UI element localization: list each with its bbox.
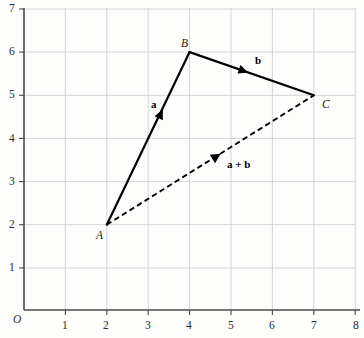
x-tick-label-7: 7 xyxy=(311,320,317,332)
y-tick-label-3: 3 xyxy=(9,176,15,188)
point-label-c: C xyxy=(322,99,330,111)
vector-b-line xyxy=(190,52,314,95)
y-tick-label-6: 6 xyxy=(9,46,15,58)
vector-a-plus-b-arrowhead xyxy=(210,150,223,164)
plot-canvas xyxy=(0,0,364,338)
x-tick-label-2: 2 xyxy=(103,320,109,332)
y-tick-label-2: 2 xyxy=(9,219,15,231)
vector-b-arrowhead xyxy=(238,65,250,77)
x-tick-label-1: 1 xyxy=(62,320,68,332)
x-tick-label-3: 3 xyxy=(145,320,151,332)
y-tick-label-7: 7 xyxy=(9,3,15,15)
x-tick-label-8: 8 xyxy=(353,320,359,332)
y-tick-label-5: 5 xyxy=(9,89,15,101)
vector-label-b: b xyxy=(255,55,261,66)
x-tick-label-4: 4 xyxy=(186,320,192,332)
point-label-a: A xyxy=(96,230,103,242)
y-tick-label-1: 1 xyxy=(9,262,15,274)
x-tick-label-6: 6 xyxy=(269,320,275,332)
origin-label: O xyxy=(13,314,21,326)
point-label-b: B xyxy=(181,38,188,50)
vector-label-a: a xyxy=(151,99,157,110)
x-tick-label-5: 5 xyxy=(228,320,234,332)
vector-addition-diagram: 1 2 3 4 5 6 7 8 1 2 3 4 5 6 7 O A B C a … xyxy=(0,0,364,338)
vector-label-a-plus-b: a + b xyxy=(227,159,250,170)
y-tick-label-4: 4 xyxy=(9,133,15,145)
